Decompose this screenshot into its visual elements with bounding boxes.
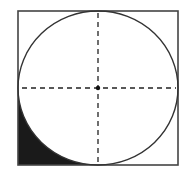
center-point	[96, 86, 100, 90]
shaded-corner-region	[18, 88, 98, 165]
inscribed-circle-diagram	[0, 0, 183, 175]
